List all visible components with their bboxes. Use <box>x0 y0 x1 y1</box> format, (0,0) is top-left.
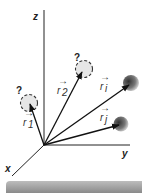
vector-r2-label: → r 2 <box>57 75 68 98</box>
svg-text:j: j <box>103 114 108 125</box>
vector-ri-label: → r i <box>100 71 110 94</box>
svg-text:r: r <box>57 85 61 96</box>
vector-r1-label: → r 1 <box>23 107 34 130</box>
x-axis <box>12 145 44 176</box>
unknown-marker-1: ? <box>16 85 22 96</box>
svg-text:r: r <box>100 112 104 123</box>
vector-rj-label: → r j <box>100 102 110 125</box>
position-vectors-diagram: z y x ? ? → r 1 → r 2 → r i → r j <box>0 0 142 193</box>
unknown-position-2-marker <box>76 61 93 78</box>
svg-text:i: i <box>105 83 108 94</box>
x-axis-label: x <box>4 163 11 174</box>
unknown-marker-2: ? <box>74 52 80 63</box>
particle-i-sphere <box>123 75 139 91</box>
svg-text:2: 2 <box>61 87 68 98</box>
svg-text:1: 1 <box>28 119 34 130</box>
bottom-caption-bar <box>6 181 142 193</box>
svg-text:r: r <box>100 81 104 92</box>
particle-j-sphere <box>114 117 129 132</box>
y-axis-label: y <box>121 148 128 159</box>
z-axis-label: z <box>32 11 38 22</box>
vector-rj-arrow <box>44 125 119 145</box>
svg-text:r: r <box>23 117 27 128</box>
